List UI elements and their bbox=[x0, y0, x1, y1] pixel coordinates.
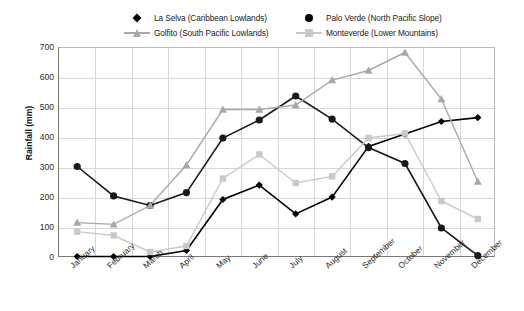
legend-label-la-selva: La Selva (Caribbean Lowlands) bbox=[154, 13, 267, 23]
series-layer bbox=[59, 48, 496, 258]
legend-key-palo-verde bbox=[296, 12, 322, 23]
square-marker bbox=[365, 135, 371, 141]
circle-marker bbox=[401, 160, 408, 167]
triangle-marker bbox=[182, 161, 190, 168]
series-3 bbox=[74, 130, 481, 255]
y-tick-label: 300 bbox=[20, 162, 54, 172]
series-0 bbox=[74, 114, 482, 260]
chart-legend: La Selva (Caribbean Lowlands) Palo Verde… bbox=[124, 10, 454, 40]
square-marker bbox=[293, 180, 299, 186]
legend-label-monteverde: Monteverde (Lower Mountains) bbox=[326, 28, 438, 38]
y-tick-label: 200 bbox=[20, 192, 54, 202]
triangle-marker bbox=[401, 49, 409, 56]
diamond-marker-icon bbox=[132, 13, 141, 22]
circle-marker bbox=[256, 116, 263, 123]
triangle-marker bbox=[365, 67, 373, 74]
diamond-marker bbox=[438, 118, 445, 125]
circle-marker bbox=[110, 192, 117, 199]
diamond-marker bbox=[474, 114, 481, 121]
square-marker bbox=[183, 243, 189, 249]
circle-marker bbox=[183, 189, 190, 196]
y-tick-label: 500 bbox=[20, 102, 54, 112]
y-tick-label: 0 bbox=[20, 252, 54, 262]
square-marker bbox=[329, 173, 335, 179]
circle-marker-icon bbox=[305, 14, 313, 22]
square-marker bbox=[110, 232, 116, 238]
square-marker bbox=[256, 151, 262, 157]
y-tick-label: 100 bbox=[20, 222, 54, 232]
series-1 bbox=[74, 92, 482, 259]
triangle-marker bbox=[474, 178, 482, 185]
circle-marker bbox=[438, 224, 445, 231]
plot-area bbox=[58, 47, 495, 257]
series-line bbox=[77, 96, 478, 256]
y-axis-ticks: 0100200300400500600700 bbox=[14, 0, 54, 311]
legend-label-golfito: Golfito (South Pacific Lowlands) bbox=[154, 28, 268, 38]
square-marker bbox=[74, 228, 80, 234]
y-tick-label: 400 bbox=[20, 132, 54, 142]
circle-marker bbox=[219, 134, 226, 141]
circle-marker bbox=[292, 92, 299, 99]
legend-item-monteverde[interactable]: Monteverde (Lower Mountains) bbox=[296, 25, 438, 40]
rainfall-line-chart: La Selva (Caribbean Lowlands) Palo Verde… bbox=[0, 0, 524, 311]
legend-key-golfito bbox=[124, 27, 150, 38]
legend-row-1: La Selva (Caribbean Lowlands) Palo Verde… bbox=[124, 10, 454, 25]
legend-key-monteverde bbox=[296, 27, 322, 38]
legend-item-la-selva[interactable]: La Selva (Caribbean Lowlands) bbox=[124, 10, 296, 25]
square-marker bbox=[402, 130, 408, 136]
legend-key-la-selva bbox=[124, 12, 150, 23]
square-marker-icon bbox=[305, 29, 313, 37]
legend-item-golfito[interactable]: Golfito (South Pacific Lowlands) bbox=[124, 25, 296, 40]
circle-marker bbox=[365, 144, 372, 151]
y-tick-label: 600 bbox=[20, 72, 54, 82]
y-tick-label: 700 bbox=[20, 42, 54, 52]
legend-row-2: Golfito (South Pacific Lowlands) Monteve… bbox=[124, 25, 454, 40]
circle-marker bbox=[329, 116, 336, 123]
triangle-marker-icon bbox=[133, 29, 141, 37]
legend-label-palo-verde: Palo Verde (North Pacific Slope) bbox=[326, 13, 442, 23]
square-marker bbox=[475, 216, 481, 222]
triangle-marker bbox=[292, 101, 300, 108]
square-marker bbox=[438, 198, 444, 204]
circle-marker bbox=[74, 163, 81, 170]
square-marker bbox=[220, 175, 226, 181]
legend-item-palo-verde[interactable]: Palo Verde (North Pacific Slope) bbox=[296, 10, 442, 25]
series-line bbox=[77, 134, 478, 253]
